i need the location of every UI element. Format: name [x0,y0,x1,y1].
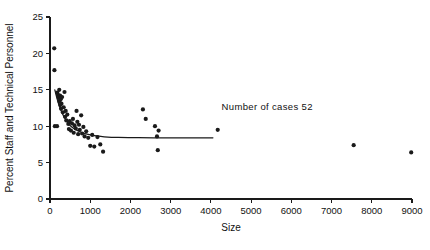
data-point [157,128,161,132]
data-point [101,150,105,154]
data-point [64,109,68,113]
y-tick-label-15: 15 [32,84,43,95]
x-tick-label-7000: 7000 [321,205,342,216]
data-point [155,134,159,138]
number-of-cases: Number of cases 52 [222,101,313,112]
data-point [352,143,356,147]
x-tick-label-9000: 9000 [401,205,422,216]
data-point [153,124,157,128]
data-point [71,117,75,121]
data-point [62,105,66,109]
chart-figure: 0510152025010002000300040005000600070008… [0,0,430,250]
data-point [90,133,94,137]
data-point [92,144,96,148]
data-point [76,132,80,136]
data-point [81,125,85,129]
data-point [62,90,66,94]
data-point [144,117,148,121]
x-tick-label-2000: 2000 [120,205,141,216]
y-tick-label-0: 0 [38,193,43,204]
data-point [141,107,145,111]
data-point [52,46,56,50]
data-point [52,68,56,72]
x-tick-label-4000: 4000 [200,205,221,216]
x-tick-label-6000: 6000 [281,205,302,216]
data-point [74,109,78,113]
data-point [86,136,90,140]
scatter-plot-svg: 0510152025010002000300040005000600070008… [0,0,430,250]
data-point [409,150,413,154]
x-tick-label-5000: 5000 [241,205,262,216]
data-point [60,95,64,99]
data-point [216,128,220,132]
y-axis-title: Percent Staff and Technical Personnel [4,23,15,192]
data-point [95,135,99,139]
x-tick-label-0: 0 [47,205,52,216]
data-point [82,134,86,138]
data-point [65,112,69,116]
data-point [77,123,81,127]
data-point [84,129,88,133]
y-tick-label-25: 25 [32,11,43,22]
data-point [57,88,61,92]
y-tick-label-20: 20 [32,48,43,59]
data-point [59,102,63,106]
data-point [72,131,76,135]
data-point [79,113,83,117]
axis-tick-labels: 0510152025010002000300040005000600070008… [32,11,422,215]
x-tick-label-3000: 3000 [160,205,181,216]
data-point [156,148,160,152]
data-point [55,124,59,128]
chart-annotations: Number of cases 52 [222,101,313,112]
x-axis-title: Size [221,222,241,233]
data-point [78,128,82,132]
data-point [88,144,92,148]
data-point [98,142,102,146]
data-point [74,126,78,130]
x-tick-label-8000: 8000 [361,205,382,216]
y-tick-label-10: 10 [32,121,43,132]
y-tick-label-5: 5 [38,157,43,168]
x-tick-label-1000: 1000 [80,205,101,216]
